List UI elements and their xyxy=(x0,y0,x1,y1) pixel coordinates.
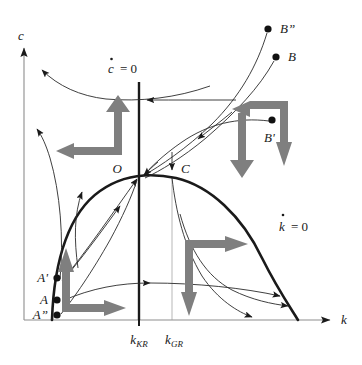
x-tick-k-kr: kKR xyxy=(130,332,148,349)
dot-b-dprime xyxy=(264,25,271,32)
c-dot-equals: = 0 xyxy=(120,61,137,76)
label-point-a-prime: A' xyxy=(36,270,48,285)
k-dot-equals: = 0 xyxy=(291,219,308,234)
arrow-elbow-left-down-stem xyxy=(230,105,254,178)
label-point-a-dprime: A” xyxy=(32,307,48,322)
arrow-head-right-lower-right xyxy=(225,236,248,252)
arrow-head-left-upper xyxy=(56,143,74,159)
arrow-shaft-right-lower-left xyxy=(62,304,108,312)
k-kr-sub: KR xyxy=(135,339,148,349)
x-tick-k-gr: kGR xyxy=(165,332,183,349)
phase-diagram: c k xyxy=(0,0,362,365)
label-point-c: C xyxy=(181,161,190,176)
dot-b-prime xyxy=(268,116,275,123)
svg-text:k = 0: k = 0 xyxy=(279,219,308,234)
k-dot-overdot xyxy=(282,214,285,217)
arrow-shaft-down-lower-right xyxy=(185,240,193,298)
x-axis-label: k xyxy=(341,312,347,327)
trajectory-from-b-prime-to-o xyxy=(142,120,269,177)
quadrant-arrows-lower-right xyxy=(181,236,248,316)
dot-a-prime xyxy=(53,274,60,281)
label-point-b-dprime: B” xyxy=(280,21,295,36)
label-point-b-prime: B' xyxy=(264,130,275,145)
trajectory-from-a-right-2 xyxy=(150,283,280,296)
label-point-o: O xyxy=(113,161,123,176)
k-gr-sub: GR xyxy=(171,339,183,349)
arrow-head-down-lower-right xyxy=(181,292,197,316)
quadrant-arrows-upper-right xyxy=(230,101,292,178)
trajectory-from-a-dprime-to-o xyxy=(61,180,137,314)
label-point-b: B xyxy=(288,49,296,64)
quadrant-arrows-lower-left xyxy=(58,248,126,316)
c-dot-overdot xyxy=(110,58,113,61)
arrow-elbow-up-left-stem xyxy=(74,95,130,155)
c-dot-base: c xyxy=(108,61,114,76)
point-labels: O C A A' A” B B” B' xyxy=(32,21,296,322)
arrow-shaft-down-upper-right xyxy=(280,101,288,149)
label-c-dot-zero: c = 0 xyxy=(108,58,137,76)
dot-a xyxy=(53,296,60,303)
trajectory-from-a-right-1 xyxy=(62,283,150,301)
label-point-a: A xyxy=(39,292,48,307)
quadrant-arrows-upper-left xyxy=(56,95,130,159)
trajectory-b-family-mid-arrow xyxy=(198,112,232,139)
k-dot-base: k xyxy=(279,219,285,234)
arrow-head-right-lower-left xyxy=(104,300,126,316)
tick-guides xyxy=(139,176,172,326)
x-tick-labels: kKR kGR xyxy=(130,332,183,349)
arrow-shaft-right-lower-right xyxy=(185,240,229,248)
svg-text:c = 0: c = 0 xyxy=(108,61,137,76)
y-axis-label: c xyxy=(18,28,24,43)
dot-b xyxy=(272,53,279,60)
label-k-dot-zero: k = 0 xyxy=(279,214,308,234)
arrow-head-down-upper-right xyxy=(276,142,292,166)
dot-a-dprime xyxy=(53,311,60,318)
saddle-path-a-prime-to-o xyxy=(62,179,137,281)
phase-diagram-canvas: c k xyxy=(0,0,362,365)
